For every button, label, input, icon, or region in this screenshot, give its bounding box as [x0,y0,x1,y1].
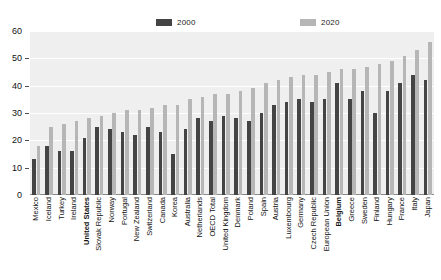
bar-2000[interactable] [184,129,188,195]
bar-2000[interactable] [373,113,377,195]
bar-2020[interactable] [251,88,255,195]
bar-group[interactable] [409,31,422,195]
bar-2000[interactable] [70,151,74,195]
bar-group[interactable] [396,31,409,195]
bar-2000[interactable] [108,129,112,195]
bar-group[interactable] [270,31,283,195]
bar-2020[interactable] [277,80,281,195]
bar-2000[interactable] [58,151,62,195]
bar-group[interactable] [182,31,195,195]
bar-2000[interactable] [196,118,200,195]
bar-2020[interactable] [226,94,230,195]
bar-2020[interactable] [390,61,394,195]
bar-group[interactable] [232,31,245,195]
bar-2000[interactable] [234,118,238,195]
bar-2020[interactable] [150,108,154,195]
bar-2020[interactable] [327,72,331,195]
bar-2000[interactable] [297,99,301,195]
bar-2020[interactable] [289,77,293,195]
bar-2020[interactable] [352,69,356,195]
bar-2020[interactable] [415,50,419,195]
bar-group[interactable] [156,31,169,195]
bar-group[interactable] [245,31,258,195]
bar-2000[interactable] [285,102,289,195]
bar-2000[interactable] [335,83,339,195]
y-tick-label: 60 [12,27,22,36]
bar-2020[interactable] [49,127,53,195]
bar-2020[interactable] [188,99,192,195]
bar-group[interactable] [333,31,346,195]
bar-2020[interactable] [138,110,142,195]
bar-2020[interactable] [176,105,180,195]
bar-2000[interactable] [348,99,352,195]
bar-group[interactable] [207,31,220,195]
bar-group[interactable] [295,31,308,195]
bar-group[interactable] [384,31,397,195]
bar-2020[interactable] [112,113,116,195]
bar-2000[interactable] [159,132,163,195]
bar-2000[interactable] [133,135,137,195]
bar-2020[interactable] [213,94,217,195]
bar-2000[interactable] [424,80,428,195]
bar-group[interactable] [81,31,94,195]
bar-2020[interactable] [75,121,79,195]
bar-2000[interactable] [323,99,327,195]
bar-2020[interactable] [37,146,41,195]
bar-group[interactable] [68,31,81,195]
bar-2000[interactable] [146,127,150,195]
bar-group[interactable] [194,31,207,195]
bar-2000[interactable] [310,102,314,195]
bar-2000[interactable] [361,91,365,195]
bar-group[interactable] [55,31,68,195]
bar-2000[interactable] [411,75,415,195]
bar-2020[interactable] [340,69,344,195]
bar-2020[interactable] [403,56,407,195]
bar-2000[interactable] [272,105,276,195]
bar-2020[interactable] [201,97,205,195]
bar-2020[interactable] [125,110,129,195]
bar-group[interactable] [169,31,182,195]
bar-group[interactable] [257,31,270,195]
bar-2020[interactable] [428,42,432,195]
bar-2000[interactable] [45,146,49,195]
bar-2020[interactable] [87,118,91,195]
bar-group[interactable] [320,31,333,195]
bar-2000[interactable] [222,116,226,195]
bar-2000[interactable] [386,91,390,195]
bar-group[interactable] [371,31,384,195]
bar-2020[interactable] [378,64,382,195]
bar-group[interactable] [131,31,144,195]
bar-2000[interactable] [32,159,36,195]
bar-group[interactable] [144,31,157,195]
bar-2020[interactable] [62,124,66,195]
bar-2000[interactable] [209,121,213,195]
bar-group[interactable] [283,31,296,195]
bar-2020[interactable] [314,75,318,195]
bar-group[interactable] [30,31,43,195]
bar-2000[interactable] [247,121,251,195]
bar-2000[interactable] [398,83,402,195]
legend-item-2020[interactable]: 2020 [300,18,340,27]
bar-2020[interactable] [163,105,167,195]
bar-group[interactable] [93,31,106,195]
bar-2000[interactable] [121,132,125,195]
bar-2000[interactable] [260,113,264,195]
bar-2020[interactable] [100,116,104,195]
legend-item-2000[interactable]: 2000 [156,18,196,27]
x-tick-label-wrap: Japan [421,197,434,280]
bar-group[interactable] [358,31,371,195]
bar-group[interactable] [43,31,56,195]
bar-2000[interactable] [171,154,175,195]
bar-2020[interactable] [302,75,306,195]
bar-group[interactable] [308,31,321,195]
bar-2020[interactable] [365,67,369,195]
bar-group[interactable] [346,31,359,195]
bar-2020[interactable] [264,83,268,195]
bar-group[interactable] [219,31,232,195]
bar-group[interactable] [106,31,119,195]
bar-group[interactable] [118,31,131,195]
bar-2000[interactable] [83,138,87,195]
bar-2020[interactable] [239,91,243,195]
bar-2000[interactable] [95,127,99,195]
bar-group[interactable] [421,31,434,195]
